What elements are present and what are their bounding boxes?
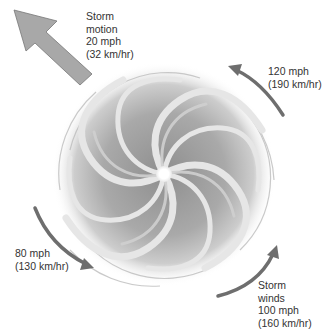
- storm-motion-line1: Storm: [86, 10, 134, 23]
- storm-winds-line2: winds: [258, 292, 312, 305]
- wind-80-speed-metric: (130 km/hr): [15, 260, 69, 273]
- wind-80-speed: 80 mph: [15, 247, 69, 260]
- storm-motion-arrow: [14, 10, 92, 85]
- storm-winds-speed: 100 mph: [258, 304, 312, 317]
- wind-120-speed-metric: (190 km/hr): [268, 78, 322, 91]
- storm-winds-line1: Storm: [258, 279, 312, 292]
- storm-motion-label: Storm motion 20 mph (32 km/hr): [86, 10, 134, 60]
- storm-spiral: [52, 62, 276, 286]
- wind-label-120: 120 mph (190 km/hr): [268, 65, 322, 90]
- storm-motion-speed: 20 mph: [86, 35, 134, 48]
- storm-winds-label: Storm winds 100 mph (160 km/hr): [258, 279, 312, 329]
- wind-120-speed: 120 mph: [268, 65, 322, 78]
- storm-eye: [156, 166, 172, 182]
- storm-motion-speed-metric: (32 km/hr): [86, 48, 134, 61]
- wind-label-80: 80 mph (130 km/hr): [15, 247, 69, 272]
- storm-motion-line2: motion: [86, 23, 134, 36]
- storm-winds-speed-metric: (160 km/hr): [258, 317, 312, 330]
